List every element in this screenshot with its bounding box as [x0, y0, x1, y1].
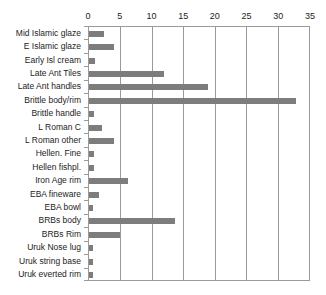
x-tick-label: 5: [117, 10, 122, 22]
y-axis-label-row: Uruk string base: [0, 254, 86, 267]
y-axis-label-row: Early Isl cream: [0, 53, 86, 66]
y-axis-label: Early Isl cream: [25, 55, 81, 65]
bar-row: [89, 81, 309, 94]
y-axis-category-labels: Mid Islamic glazeE Islamic glazeEarly Is…: [0, 26, 86, 281]
y-axis-label: BRBs Rim: [42, 229, 81, 239]
y-axis-label-row: Uruk Nose lug: [0, 241, 86, 254]
x-tick-label: 0: [85, 10, 90, 22]
bar: [89, 151, 94, 157]
bar: [89, 165, 94, 171]
y-axis-label: EBA bowl: [45, 202, 81, 212]
x-tick-label: 10: [146, 10, 156, 22]
bar-row: [89, 255, 309, 268]
bar: [89, 98, 296, 104]
x-tick-label: 15: [178, 10, 188, 22]
y-axis-label-row: L Roman other: [0, 133, 86, 146]
y-axis-label: Hellen. Fine: [36, 148, 81, 158]
y-axis-label: BRBs body: [38, 215, 81, 225]
bar: [89, 272, 93, 278]
bar: [89, 84, 208, 90]
bar: [89, 44, 114, 50]
bar-rows: [89, 27, 309, 280]
x-tick-label: 35: [305, 10, 315, 22]
y-axis-label: Uruk Nose lug: [27, 242, 81, 252]
bar-row: [89, 27, 309, 40]
bar: [89, 218, 175, 224]
y-axis-label-row: Late Ant Tiles: [0, 66, 86, 79]
y-axis-label-row: Brittle body/rim: [0, 93, 86, 106]
bar-row: [89, 148, 309, 161]
y-axis-label: Hellen fishpl.: [32, 162, 81, 172]
bar-row: [89, 67, 309, 80]
bar-row: [89, 174, 309, 187]
y-axis-label-row: L Roman C: [0, 120, 86, 133]
bar: [89, 138, 114, 144]
bar-row: [89, 107, 309, 120]
bar: [89, 31, 104, 37]
bar: [89, 232, 120, 238]
bar: [89, 259, 93, 265]
bar-row: [89, 40, 309, 53]
y-axis-label: Brittle handle: [31, 108, 81, 118]
bar: [89, 178, 128, 184]
bar-row: [89, 215, 309, 228]
bar: [89, 245, 93, 251]
figure-caption: [0, 288, 326, 295]
bar-row: [89, 161, 309, 174]
bar: [89, 71, 164, 77]
y-axis-label: Iron Age rim: [35, 175, 81, 185]
y-axis-label-row: Hellen fishpl.: [0, 160, 86, 173]
y-axis-label-row: EBA fineware: [0, 187, 86, 200]
bar-row: [89, 54, 309, 67]
x-axis-tick-labels: 05101520253035: [88, 10, 310, 24]
bar-row: [89, 94, 309, 107]
y-axis-label-row: Iron Age rim: [0, 173, 86, 186]
bar-chart: 05101520253035 Mid Islamic glazeE Islami…: [0, 0, 326, 295]
bar-row: [89, 121, 309, 134]
x-tick-label: 25: [242, 10, 252, 22]
bar-row: [89, 228, 309, 241]
y-axis-label: E Islamic glaze: [24, 41, 81, 51]
y-axis-label: Uruk everted rim: [18, 269, 81, 279]
bar-row: [89, 268, 309, 281]
plot-area: [88, 26, 310, 281]
bar: [89, 205, 93, 211]
y-axis-label-row: Uruk everted rim: [0, 267, 86, 280]
y-axis-label-row: BRBs body: [0, 214, 86, 227]
y-axis-label-row: Late Ant handles: [0, 80, 86, 93]
x-tick-label: 30: [273, 10, 283, 22]
y-axis-label-row: Mid Islamic glaze: [0, 26, 86, 39]
bar-row: [89, 242, 309, 255]
bar: [89, 125, 102, 131]
y-axis-label-row: Hellen. Fine: [0, 147, 86, 160]
bar-row: [89, 134, 309, 147]
y-axis-label: EBA fineware: [30, 189, 81, 199]
y-axis-label-row: EBA bowl: [0, 200, 86, 213]
bar: [89, 192, 99, 198]
bar-row: [89, 188, 309, 201]
bar: [89, 58, 95, 64]
y-axis-label-row: Brittle handle: [0, 106, 86, 119]
y-axis-label: L Roman other: [25, 135, 81, 145]
x-tick-label: 20: [210, 10, 220, 22]
y-axis-label-row: E Islamic glaze: [0, 39, 86, 52]
y-axis-label-row: BRBs Rim: [0, 227, 86, 240]
y-axis-label: L Roman C: [38, 122, 81, 132]
y-axis-label: Late Ant handles: [18, 81, 81, 91]
y-axis-label: Late Ant Tiles: [30, 68, 81, 78]
bar: [89, 111, 94, 117]
y-axis-label: Brittle body/rim: [24, 95, 81, 105]
y-axis-label: Uruk string base: [19, 256, 81, 266]
y-axis-label: Mid Islamic glaze: [16, 28, 81, 38]
bar-row: [89, 201, 309, 214]
